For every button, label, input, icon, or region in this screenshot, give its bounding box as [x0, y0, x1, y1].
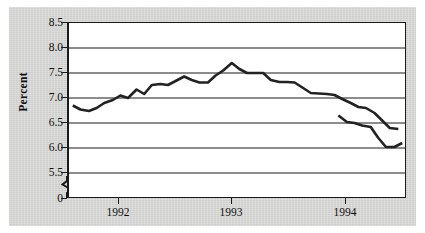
y-tick-mark-0 — [61, 198, 67, 199]
chart-canvas — [69, 23, 405, 196]
x-tick-label-1993: 1993 — [220, 206, 243, 218]
y-axis-tick-labels: 8.5 8.0 7.5 7.0 6.5 6.0 5.5 0 — [22, 0, 63, 233]
figure-container: Percent 8.5 8.0 7.5 7.0 6.5 6.0 5.5 0 19… — [0, 0, 425, 233]
x-tick-label-1992: 1992 — [107, 206, 130, 218]
x-tick-label-1994: 1994 — [334, 206, 357, 218]
x-tick-mark-1992 — [118, 198, 119, 204]
plot-area — [67, 22, 406, 198]
gridlines — [69, 23, 405, 173]
x-tick-mark-1993 — [231, 198, 232, 204]
data-line-1 — [338, 116, 402, 148]
data-series-group — [73, 63, 402, 147]
x-tick-mark-1994 — [345, 198, 346, 204]
